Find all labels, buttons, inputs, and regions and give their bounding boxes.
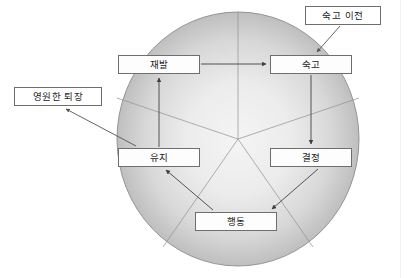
node-relapse-label: 재발 [150,60,169,70]
node-contemplation[interactable]: 숙고 [270,55,352,74]
node-relapse[interactable]: 재발 [118,55,200,74]
annotation-precontemplation-label: 숙고 이전 [322,11,363,21]
diagram-canvas: 재발 숙고 유지 결정 행동 숙고 이전 영원한 퇴장 [0,0,416,278]
leader-precontemplation [317,26,340,52]
node-action-label: 행동 [227,217,246,227]
node-maintenance-label: 유지 [150,153,169,163]
node-determination-label: 결정 [302,153,321,163]
annotation-precontemplation[interactable]: 숙고 이전 [305,6,381,25]
node-maintenance[interactable]: 유지 [118,148,200,167]
annotation-permanent-exit[interactable]: 영원한 퇴장 [14,87,102,106]
node-contemplation-label: 숙고 [302,60,321,70]
diagram-graphics [0,0,416,278]
node-action[interactable]: 행동 [195,212,277,231]
node-determination[interactable]: 결정 [270,148,352,167]
annotation-permanent-exit-label: 영원한 퇴장 [33,92,83,102]
